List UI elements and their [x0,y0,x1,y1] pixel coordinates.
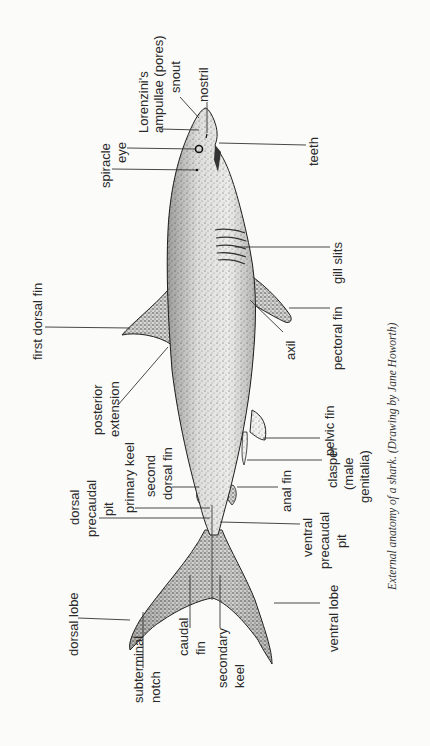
label-snout: snout [168,61,184,93]
label-clasper-line1: clasper [325,446,341,488]
label-dorsal-precaudal-line3: pit [101,502,117,516]
label-gill-slits: gill slits [330,242,346,284]
first-dorsal-fin-shape [122,290,172,345]
label-axil: axil [283,340,299,360]
shark-anatomy-figure: snout nostril Lorenzini's ampullae (pore… [0,0,430,746]
label-primary-keel: primary keel [122,442,138,513]
label-clasper-line2: (male [341,457,357,490]
label-second-dorsal-line2: dorsal fin [160,447,176,500]
label-ventral-precaudal-line1: ventral [300,518,316,557]
pelvic-fin-shape [250,410,266,440]
label-eye: eye [114,142,130,163]
label-lorenzini-line2: ampullae (pores) [151,35,167,133]
label-ventral-precaudal-line3: pit [334,534,350,548]
label-nostril: nostril [196,67,212,102]
label-secondary-keel-line2: keel [232,664,248,688]
label-lorenzini-line1: Lorenzini's [136,71,152,133]
label-posterior-extension-line1: posterior [90,384,106,435]
label-clasper-line3: genitalia) [357,450,373,503]
label-secondary-keel-line1: secondary [215,628,231,688]
label-ventral-precaudal-line2: precaudal [317,512,333,569]
label-pectoral-fin: pectoral fin [330,306,346,370]
label-ventral-lobe: ventral lobe [326,585,342,652]
clasper-shape [242,432,247,465]
label-subterminal-notch-line1: subterminal [131,636,147,703]
label-dorsal-precaudal-line1: dorsal [67,490,83,525]
label-dorsal-precaudal-line2: precaudal [84,480,100,537]
label-posterior-extension-line2: extension [107,381,123,437]
spiracle-shape [196,169,199,172]
label-spiracle: spiracle [98,143,114,188]
label-caudal-fin-line1: caudal [176,618,192,656]
label-subterminal-notch-line2: notch [148,671,164,703]
label-second-dorsal-line1: second [143,455,159,497]
shark-body-shape [167,108,255,535]
label-teeth: teeth [306,137,322,166]
label-caudal-fin-line2: fin [193,641,209,655]
label-first-dorsal-fin: first dorsal fin [30,283,46,360]
figure-caption: External anatomy of a shark. (Drawing by… [386,323,398,590]
label-anal-fin: anal fin [279,470,295,512]
label-dorsal-lobe: dorsal lobe [66,592,82,656]
